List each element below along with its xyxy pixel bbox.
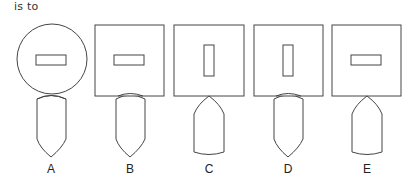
option-label-d: D [284,162,293,176]
option-b[interactable]: B [95,25,164,176]
answer-options-diagram: A B C D E [0,0,418,186]
option-label-c: C [205,162,214,176]
bullet-shape-a [37,96,66,158]
horizontal-slot-e [351,55,381,65]
horizontal-slot-a [36,55,66,65]
horizontal-slot-b [114,55,144,65]
option-label-e: E [363,162,371,176]
bullet-shape-d [274,95,303,157]
option-label-a: A [47,162,55,176]
option-label-b: B [126,162,134,176]
vertical-slot-c [204,45,214,76]
bullet-shape-c [194,96,224,155]
bullet-shape-e [352,96,382,155]
option-c[interactable]: C [174,25,244,176]
bullet-shape-b [116,95,145,157]
option-d[interactable]: D [254,25,323,176]
vertical-slot-d [283,45,293,76]
option-a[interactable]: A [17,24,87,176]
option-e[interactable]: E [332,25,401,176]
